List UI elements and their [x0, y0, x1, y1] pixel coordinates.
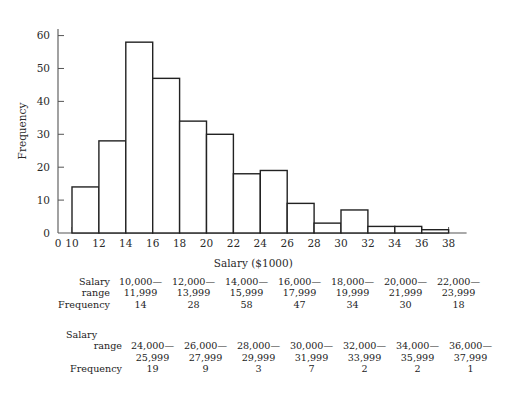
x-tick-label: 14: [119, 237, 133, 249]
table-row: Frequency 14 28 58 47 34 30 18: [54, 299, 485, 310]
cell-frequency: 2: [338, 363, 391, 374]
histogram-figure: 0102030405060010121416182022242628303234…: [0, 0, 509, 272]
x-tick-label: 24: [254, 237, 268, 249]
cell-frequency: 47: [273, 299, 326, 310]
x-tick-label: 38: [442, 237, 455, 249]
cell-frequency: 1: [444, 363, 497, 374]
cell-frequency: 9: [179, 363, 232, 374]
cell-range-top: 20,000—: [379, 276, 432, 287]
cell-range-top: 16,000—: [273, 276, 326, 287]
cell-range-top: 10,000—: [114, 276, 167, 287]
cell-range-bottom: 21,999: [379, 287, 432, 298]
histogram-bar: [314, 223, 341, 233]
cell-range-top: 34,000—: [391, 340, 444, 351]
histogram-bar: [207, 134, 234, 233]
cell-range-bottom: 27,999: [179, 352, 232, 363]
histogram-bar: [153, 78, 180, 233]
cell-frequency: 7: [285, 363, 338, 374]
table-row: range 11,999 13,999 15,999 17,999 19,999…: [54, 287, 485, 298]
cell-range-top: 26,000—: [179, 340, 232, 351]
spacer-cell: [126, 329, 179, 340]
histogram-bar: [126, 42, 153, 233]
x-tick-label: 28: [307, 237, 320, 249]
x-tick-label: 30: [334, 237, 347, 249]
x-tick-label: 22: [227, 237, 240, 249]
histogram-bar: [99, 141, 126, 233]
cell-range-top: 22,000—: [432, 276, 485, 287]
y-axis-title: Frequency: [16, 103, 28, 160]
histogram-bar: [233, 174, 260, 233]
histogram-bar: [395, 226, 422, 233]
cell-range-top: 12,000—: [167, 276, 220, 287]
cell-range-bottom: 17,999: [273, 287, 326, 298]
cell-frequency: 14: [114, 299, 167, 310]
cell-frequency: 2: [391, 363, 444, 374]
histogram-bar: [72, 187, 99, 233]
spacer-cell: [179, 329, 232, 340]
histogram-bar: [287, 203, 314, 233]
cell-frequency: 19: [126, 363, 179, 374]
x-tick-label: 12: [92, 237, 105, 249]
cell-range-top: 14,000—: [220, 276, 273, 287]
cell-range-bottom: 31,999: [285, 352, 338, 363]
y-tick-label: 0: [43, 227, 50, 239]
cell-frequency: 28: [167, 299, 220, 310]
y-tick-label: 40: [37, 95, 50, 107]
table-row: Salary: [54, 329, 497, 340]
cell-range-bottom: 33,999: [338, 352, 391, 363]
row-label-frequency: Frequency: [54, 299, 114, 310]
cell-range-bottom: 35,999: [391, 352, 444, 363]
cell-range-bottom: 15,999: [220, 287, 273, 298]
bar-group: [72, 42, 449, 233]
frequency-table-2: Salary range 24,000— 26,000— 28,000— 30,…: [54, 329, 497, 374]
x-tick-label: 20: [200, 237, 213, 249]
cell-range-top: 32,000—: [338, 340, 391, 351]
cell-range-bottom: 19,999: [326, 287, 379, 298]
histogram-bar: [341, 210, 368, 233]
row-label-range: range: [54, 340, 126, 351]
histogram-bar: [180, 121, 207, 233]
y-tick-label: 60: [37, 29, 50, 41]
table-row: Frequency 19 9 3 7 2 2 1: [54, 363, 497, 374]
table-row: Salary 10,000— 12,000— 14,000— 16,000— 1…: [54, 276, 485, 287]
x-tick-label: 18: [173, 237, 186, 249]
histogram-bar: [260, 170, 287, 233]
x-tick-label: 0: [55, 237, 62, 249]
cell-range-top: 18,000—: [326, 276, 379, 287]
cell-range-bottom: 23,999: [432, 287, 485, 298]
row-label-frequency: Frequency: [54, 363, 126, 374]
y-tick-label: 30: [37, 128, 50, 140]
cell-frequency: 58: [220, 299, 273, 310]
x-tick-label: 16: [146, 237, 160, 249]
row-label-salary: Salary: [54, 329, 126, 340]
cell-frequency: 34: [326, 299, 379, 310]
spacer-cell: [285, 329, 338, 340]
cell-frequency: 18: [432, 299, 485, 310]
x-tick-label: 10: [65, 237, 78, 249]
histogram-bar: [368, 226, 395, 233]
x-tick-label: 32: [361, 237, 374, 249]
frequency-table-2-body: Salary range 24,000— 26,000— 28,000— 30,…: [54, 329, 497, 374]
frequency-table-1-body: Salary 10,000— 12,000— 14,000— 16,000— 1…: [54, 276, 485, 310]
cell-range-bottom: 37,999: [444, 352, 497, 363]
frequency-table-1: Salary 10,000— 12,000— 14,000— 16,000— 1…: [54, 276, 485, 310]
cell-range-bottom: 25,999: [126, 352, 179, 363]
cell-range-bottom: 11,999: [114, 287, 167, 298]
row-label-blank: [54, 352, 126, 363]
cell-range-top: 30,000—: [285, 340, 338, 351]
x-tick-label: 26: [281, 237, 295, 249]
row-label-salary: Salary: [54, 276, 114, 287]
spacer-cell: [391, 329, 444, 340]
cell-range-top: 24,000—: [126, 340, 179, 351]
spacer-cell: [232, 329, 285, 340]
y-tick-label: 10: [37, 194, 50, 206]
y-tick-label: 20: [37, 161, 50, 173]
spacer-cell: [338, 329, 391, 340]
table-row: range 24,000— 26,000— 28,000— 30,000— 32…: [54, 340, 497, 351]
y-tick-label: 50: [37, 62, 50, 74]
table-row: 25,999 27,999 29,999 31,999 33,999 35,99…: [54, 352, 497, 363]
cell-range-top: 28,000—: [232, 340, 285, 351]
x-tick-label: 34: [388, 237, 402, 249]
histogram-plot: 0102030405060010121416182022242628303234…: [0, 0, 509, 272]
spacer-cell: [444, 329, 497, 340]
